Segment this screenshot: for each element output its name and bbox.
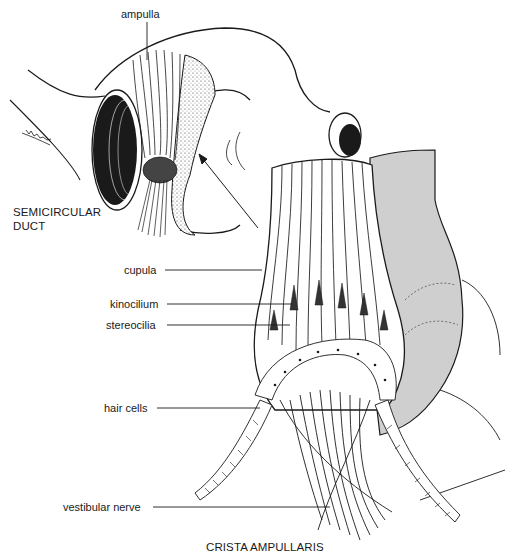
semicircular-duct-title-line2: DUCT (13, 219, 101, 233)
label-vestibular-nerve: vestibular nerve (63, 501, 141, 513)
label-kinocilium: kinocilium (110, 298, 158, 310)
crista-ampullaris-title: CRISTA AMPULLARIS (206, 540, 324, 554)
semicircular-duct (10, 70, 105, 180)
anatomical-illustration (0, 0, 513, 559)
duct-opening-right (329, 113, 361, 157)
duct-opening-left (92, 90, 142, 210)
label-cupula: cupula (124, 264, 156, 276)
label-hair-cells: hair cells (104, 402, 147, 414)
pointer-arrow (199, 154, 258, 228)
semicircular-duct-title-line1: SEMICIRCULAR (13, 205, 101, 219)
upper-cupula (133, 50, 180, 160)
vestibular-nerve-fibers (280, 390, 392, 540)
label-stereocilia: stereocilia (106, 319, 156, 331)
label-ampulla: ampulla (121, 8, 160, 20)
stippled-wall (172, 55, 215, 235)
semicircular-duct-title: SEMICIRCULAR DUCT (13, 205, 101, 233)
